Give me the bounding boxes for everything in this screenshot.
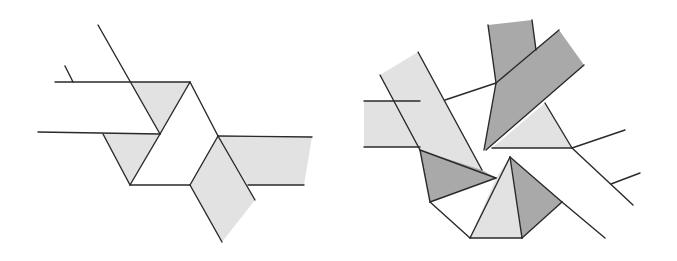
fold-line (190, 82, 218, 136)
fold-line (572, 148, 633, 205)
fold-line (218, 136, 312, 137)
fold-line (611, 173, 640, 184)
right-pinwheel-twist-figure (364, 20, 640, 238)
left-hexagon-twist-figure (38, 25, 312, 242)
fold-line (430, 202, 470, 238)
fold-line (98, 25, 160, 134)
fold-line (562, 202, 605, 238)
light-shaded-flap (103, 134, 160, 185)
fold-line (445, 83, 496, 100)
light-shaded-flap (130, 82, 190, 134)
fold-diagram-canvas (0, 0, 677, 261)
fold-line (572, 130, 625, 148)
fold-line (38, 132, 160, 134)
fold-line (65, 66, 73, 82)
